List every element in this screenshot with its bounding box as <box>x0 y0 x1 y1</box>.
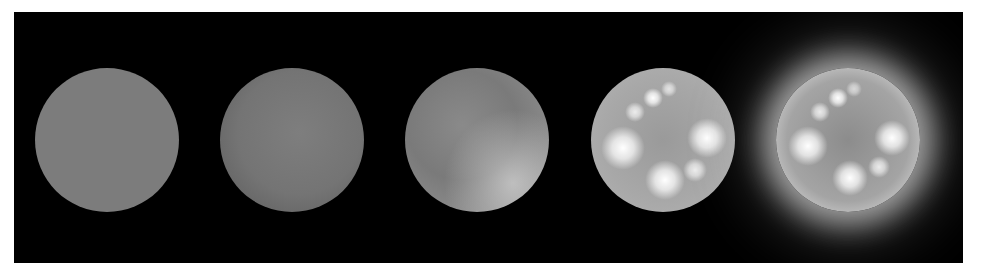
sphere-body <box>35 68 179 212</box>
highlight-spot <box>661 81 677 97</box>
sphere-glowing-rim <box>776 68 920 212</box>
highlight-spot <box>687 118 727 158</box>
highlight-spot <box>625 102 645 122</box>
highlight-spot <box>683 158 707 182</box>
sphere-specular-spots <box>591 68 735 212</box>
highlight-spot <box>874 120 910 156</box>
highlight-spot <box>832 160 868 196</box>
highlight-spot <box>828 88 848 108</box>
sphere-body <box>405 68 549 212</box>
sphere-directionally-lit <box>405 68 549 212</box>
highlight-spot <box>868 156 890 178</box>
highlight-spot <box>645 160 685 200</box>
highlight-spot <box>601 126 645 170</box>
sphere-body <box>220 68 364 212</box>
highlight-spot <box>846 81 862 97</box>
highlight-spot <box>643 88 663 108</box>
image-panel <box>14 12 963 263</box>
sphere-flat <box>35 68 179 212</box>
sphere-soft-shaded <box>220 68 364 212</box>
highlight-spot <box>788 126 828 166</box>
highlight-spot <box>810 102 830 122</box>
